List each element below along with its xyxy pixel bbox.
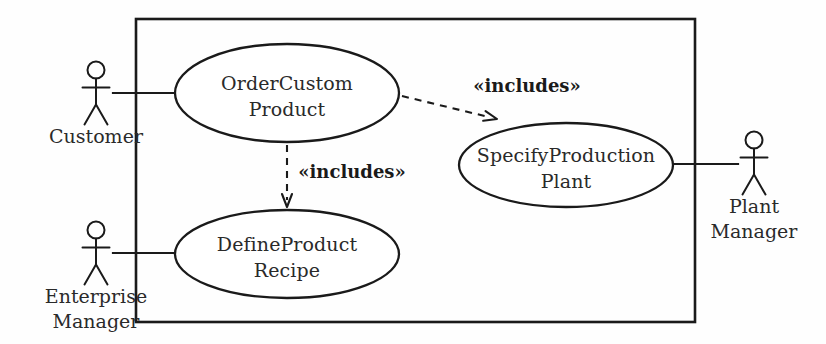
use-case-label-line1: OrderCustom — [221, 72, 353, 94]
actor-customer[interactable]: Customer — [49, 62, 144, 147]
actor-label-line2: Manager — [53, 310, 141, 332]
use-case-label-line2: Product — [249, 98, 326, 120]
use-case-label-line2: Recipe — [254, 259, 320, 281]
use-case-define-product-recipe[interactable]: DefineProduct Recipe — [175, 210, 399, 298]
include-stereotype-label-diagonal: «includes» — [473, 75, 580, 96]
diagram-canvas: «includes» «includes» OrderCustom Produc… — [0, 0, 826, 344]
uml-use-case-diagram: «includes» «includes» OrderCustom Produc… — [0, 0, 826, 344]
actor-label-line1: Plant — [729, 195, 779, 217]
include-relation-order-to-specify: «includes» — [402, 75, 581, 121]
use-case-label-line1: DefineProduct — [217, 233, 358, 255]
include-arrowhead-diagonal — [483, 111, 497, 121]
use-case-order-custom-product[interactable]: OrderCustom Product — [175, 44, 399, 142]
include-stereotype-label-vertical: «includes» — [298, 161, 405, 182]
actor-enterprise-manager[interactable]: Enterprise Manager — [45, 222, 147, 332]
use-case-label-line1: SpecifyProduction — [477, 144, 655, 166]
actor-label-line1: Enterprise — [45, 285, 147, 307]
actor-stick-figure-icon[interactable] — [83, 62, 110, 125]
use-case-specify-production-plant[interactable]: SpecifyProduction Plant — [459, 123, 673, 207]
include-dashed-line-diagonal — [402, 96, 490, 117]
actor-plant-manager[interactable]: Plant Manager — [711, 132, 799, 242]
actor-stick-figure-icon[interactable] — [741, 132, 768, 195]
actor-label-line2: Manager — [711, 220, 799, 242]
use-case-label-line2: Plant — [541, 170, 592, 192]
actor-label-line1: Customer — [49, 125, 144, 147]
actor-stick-figure-icon[interactable] — [83, 222, 110, 285]
include-arrowhead-vertical — [282, 194, 292, 207]
include-relation-order-to-define: «includes» — [282, 145, 406, 207]
